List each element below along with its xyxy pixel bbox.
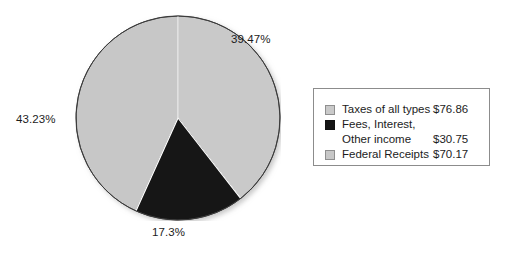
slice-label-taxes-of-all-types: 39.47%: [231, 33, 271, 45]
legend-swatch-taxes-of-all-types: [325, 105, 335, 115]
legend-rows: Taxes of all types $76.86 Fees, Interest…: [325, 102, 481, 162]
chart-legend: Taxes of all types $76.86 Fees, Interest…: [313, 88, 490, 166]
legend-value-taxes-of-all-types: $76.86: [433, 102, 481, 117]
legend-item-federal-receipts: Federal Receipts $70.17: [325, 147, 481, 162]
pie-chart-graphic: [75, 15, 281, 221]
legend-value-federal-receipts: $70.17: [433, 147, 481, 162]
legend-swatch-federal-receipts: [325, 150, 335, 160]
legend-label-fees-interest-other-income: Fees, Interest, Other income: [342, 117, 433, 147]
legend-item-taxes-of-all-types: Taxes of all types $76.86: [325, 102, 481, 117]
legend-value-fees-interest-other-income: $30.75: [433, 132, 481, 147]
legend-label-taxes-of-all-types: Taxes of all types: [342, 102, 433, 117]
pie-svg: [75, 15, 281, 221]
pie-chart-figure: 39.47% 43.23% 17.3% Taxes of all types $…: [0, 0, 506, 253]
legend-item-fees-interest-other-income: Fees, Interest, Other income $30.75: [325, 117, 481, 147]
slice-label-fees-interest-other-income: 17.3%: [152, 226, 185, 238]
legend-swatch-fees-interest-other-income: [325, 120, 335, 130]
slice-label-federal-receipts: 43.23%: [16, 113, 56, 125]
legend-label-federal-receipts: Federal Receipts: [342, 147, 433, 162]
